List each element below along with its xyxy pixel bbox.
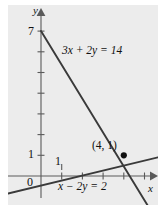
y-tick-label-7: 7 xyxy=(28,25,34,37)
x-axis-label: x xyxy=(148,183,153,194)
equation-label-2: x − 2y = 2 xyxy=(58,181,107,193)
equation-label-1: 3x + 2y = 14 xyxy=(62,45,122,57)
graph-figure: y x 7 1 0 1 3x + 2y = 14 x − 2y = 2 (4, … xyxy=(0,0,168,210)
coordinate-plane xyxy=(0,0,168,210)
x-tick-label-1: 1 xyxy=(55,155,61,167)
y-tick-label-1: 1 xyxy=(28,148,34,160)
origin-label: 0 xyxy=(27,176,33,188)
y-axis-label: y xyxy=(33,5,38,16)
intersection-point-label: (4, 1) xyxy=(92,140,117,152)
intersection-point-marker xyxy=(121,152,127,158)
